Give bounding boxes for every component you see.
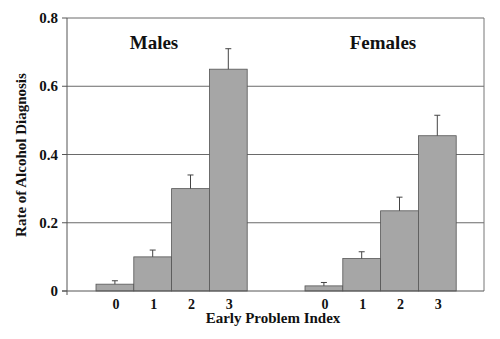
y-axis-ticks: 00.20.40.60.8 bbox=[39, 10, 67, 299]
x-tick-label: 3 bbox=[435, 297, 442, 312]
y-axis-label: Rate of Alcohol Diagnosis bbox=[13, 73, 29, 237]
x-tick-label: 0 bbox=[112, 297, 119, 312]
bar-females-3 bbox=[418, 136, 456, 291]
bar-males-1 bbox=[134, 257, 172, 291]
bars bbox=[96, 49, 456, 291]
panel-label-males: Males bbox=[130, 32, 179, 53]
x-tick-label: 1 bbox=[359, 297, 366, 312]
x-axis-label: Early Problem Index bbox=[206, 310, 341, 326]
x-tick-label: 1 bbox=[150, 297, 157, 312]
bar-females-2 bbox=[381, 211, 419, 291]
bar-chart: 00.20.40.60.8 01230123 MalesFemales Earl… bbox=[0, 0, 500, 339]
bar-males-2 bbox=[172, 189, 210, 291]
y-tick-label: 0.4 bbox=[39, 147, 58, 163]
x-tick-label: 2 bbox=[188, 297, 195, 312]
y-tick-label: 0.6 bbox=[39, 78, 58, 94]
x-tick-label: 2 bbox=[397, 297, 404, 312]
panel-labels: MalesFemales bbox=[130, 32, 417, 53]
bar-males-3 bbox=[209, 69, 247, 291]
panel-label-females: Females bbox=[350, 32, 416, 53]
bar-females-0 bbox=[305, 286, 343, 291]
y-tick-label: 0.2 bbox=[39, 215, 58, 231]
y-tick-label: 0 bbox=[51, 283, 59, 299]
bar-females-1 bbox=[343, 259, 381, 291]
y-tick-label: 0.8 bbox=[39, 10, 58, 26]
bar-males-0 bbox=[96, 284, 134, 291]
